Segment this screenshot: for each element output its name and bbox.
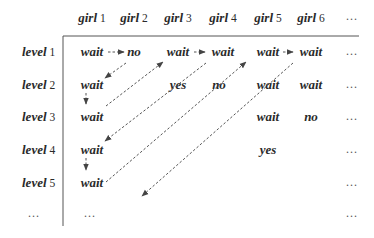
cell-l1-g5: wait [257,44,280,59]
cell-l1-g1: wait [81,44,104,59]
row-header-level-2: level2 [22,77,56,92]
cell-last-g1-ellipsis: ... [84,206,96,220]
cell-l3-ellipsis: ... [346,109,358,123]
row-header-level-5: level5 [22,175,56,190]
grid-cells: wait no wait wait wait wait ... wait yes… [81,44,358,220]
column-header-girl-3: girl3 [163,10,192,25]
cell-l1-g6: wait [300,44,323,59]
traversal-arrows [86,52,293,196]
cell-l2-g3: yes [168,77,187,92]
cell-l5-g1: wait [81,175,104,190]
row-header-level-4: level4 [22,142,56,157]
row-header-level-3: level3 [22,109,56,124]
cell-l2-g6: wait [300,77,323,92]
cell-l2-ellipsis: ... [346,77,358,91]
cell-l2-g1: wait [81,77,104,92]
cell-l4-ellipsis: ... [346,142,358,156]
row-headers: level1 level2 level3 level4 level5 ... [22,44,56,220]
arrow-l1g2-to-l2g1 [105,63,126,78]
row-header-level-1: level1 [22,44,56,59]
column-header-girl-4: girl4 [208,10,237,25]
cell-l4-g1: wait [81,142,104,157]
column-header-girl-1: girl1 [77,10,106,25]
column-header-ellipsis: ... [346,9,358,23]
cell-l1-g3: wait [167,44,190,59]
column-headers: girl1 girl2 girl3 girl4 girl5 girl6 ... [77,9,358,25]
column-header-girl-5: girl5 [253,10,282,25]
row-header-ellipsis: ... [28,206,40,220]
column-header-girl-6: girl6 [296,10,325,25]
cell-l1-g2: no [127,44,141,59]
cell-l3-g1: wait [81,109,104,124]
cell-l3-g6: no [304,109,318,124]
cell-l5-ellipsis: ... [346,175,358,189]
girl-level-diagram: girl1 girl2 girl3 girl4 girl5 girl6 ... … [0,0,374,238]
cell-l1-ellipsis: ... [346,44,358,58]
cell-last-ellipsis: ... [346,206,358,220]
arrow-l1g4-to-l4g1 [105,63,206,141]
arrow-l3g1-to-l1g3 [106,62,163,106]
cell-l1-g4: wait [212,44,235,59]
column-header-girl-2: girl2 [119,10,148,25]
cell-l4-g5: yes [258,142,277,157]
cell-l3-g5: wait [257,109,280,124]
